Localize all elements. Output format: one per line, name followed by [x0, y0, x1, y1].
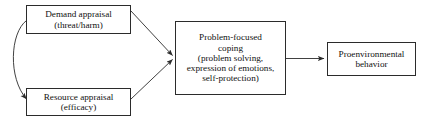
node-resource-appraisal: Resource appraisal (efficacy) [26, 88, 131, 116]
node-resource-appraisal-label: Resource appraisal (efficacy) [42, 92, 116, 113]
node-problem-focused-coping-label: Problem-focused coping (problem solving,… [185, 32, 277, 83]
edge-demand-to-coping [131, 11, 173, 56]
node-problem-focused-coping: Problem-focused coping (problem solving,… [175, 21, 286, 95]
node-proenvironmental-behavior-label: Proenvironmental behavior [337, 49, 407, 70]
edge-resource-to-coping [131, 60, 173, 100]
node-demand-appraisal: Demand appraisal (threat/harm) [26, 5, 131, 34]
edge-demand-resource-bidirectional [13, 21, 26, 100]
node-proenvironmental-behavior: Proenvironmental behavior [327, 42, 416, 76]
diagram-canvas: Demand appraisal (threat/harm) Resource … [0, 0, 425, 123]
node-demand-appraisal-label: Demand appraisal (threat/harm) [43, 9, 114, 30]
